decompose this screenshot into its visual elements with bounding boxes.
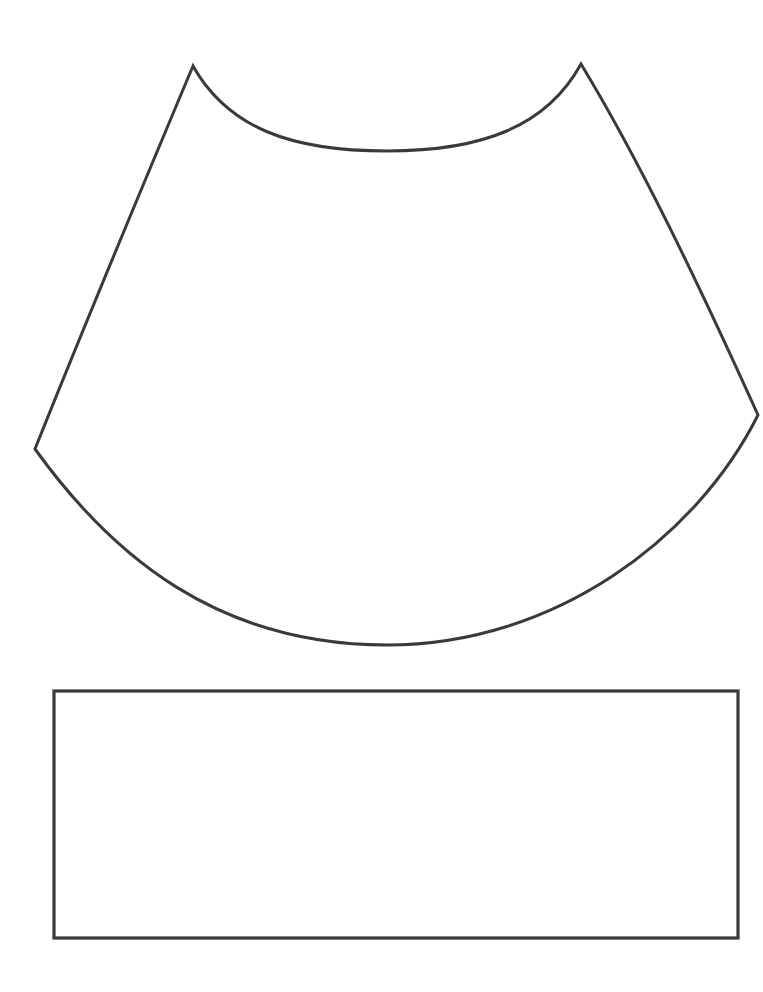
page-canvas: [0, 0, 763, 992]
figure-canvas: [0, 0, 763, 992]
sheet-background: [0, 0, 763, 992]
